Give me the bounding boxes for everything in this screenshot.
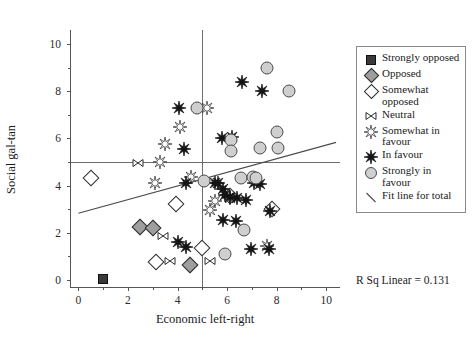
data-point <box>260 61 273 74</box>
y-tick <box>67 44 71 45</box>
y-tick <box>67 91 71 92</box>
data-point <box>176 204 188 216</box>
x-tick-minor <box>301 287 302 290</box>
x-tick-label: 8 <box>274 294 280 306</box>
x-tick-label: 0 <box>76 294 82 306</box>
data-point <box>179 176 193 190</box>
y-tick-minor <box>68 115 71 116</box>
x-tick-label: 6 <box>224 294 230 306</box>
data-point <box>163 254 177 268</box>
x-tick <box>78 287 79 291</box>
legend-item-open-diamond[interactable]: Somewhat opposed <box>362 84 461 108</box>
data-point <box>91 178 103 190</box>
y-tick-minor <box>68 256 71 257</box>
data-point <box>235 75 249 89</box>
y-tick <box>67 186 71 187</box>
data-point <box>203 254 217 268</box>
open-star-icon <box>362 125 380 140</box>
data-point <box>218 247 231 260</box>
y-tick-minor <box>68 209 71 210</box>
data-point <box>158 137 172 151</box>
data-point <box>239 193 253 207</box>
legend-item-label: Fit line for total <box>380 190 451 202</box>
data-point <box>270 126 283 139</box>
data-point <box>98 274 108 284</box>
y-axis-title: Social gal-tan <box>4 30 20 288</box>
data-point <box>224 145 237 158</box>
bowtie-icon <box>362 109 380 124</box>
data-point <box>191 101 204 114</box>
data-point <box>173 120 187 134</box>
data-point <box>203 203 217 217</box>
data-point <box>234 172 247 185</box>
filled-square-icon <box>362 52 380 67</box>
chart-root: Social gal-tan 02468100246810 Economic l… <box>0 0 473 339</box>
data-point <box>153 155 167 169</box>
data-point <box>190 265 202 277</box>
x-tick-minor <box>153 287 154 290</box>
data-point <box>131 156 145 170</box>
x-tick <box>227 287 228 291</box>
x-tick <box>178 287 179 291</box>
legend-item-filled-star[interactable]: In favour <box>362 149 461 164</box>
legend-item-label: In favour <box>380 149 423 161</box>
data-point <box>172 101 186 115</box>
data-point <box>156 229 170 243</box>
y-tick <box>67 233 71 234</box>
r-squared-annotation: R Sq Linear = 0.131 <box>356 274 450 286</box>
legend-item-filled-circle[interactable]: Strongly in favour <box>362 165 461 189</box>
open-diamond-icon <box>362 84 380 99</box>
x-tick-minor <box>202 287 203 290</box>
y-tick <box>67 138 71 139</box>
data-point <box>244 242 258 256</box>
legend-item-label: Strongly opposed <box>380 52 459 64</box>
legend: Strongly opposedOpposedSomewhat opposedN… <box>356 46 466 213</box>
legend-item-filled-diamond[interactable]: Opposed <box>362 68 461 83</box>
data-point <box>249 172 262 185</box>
x-tick <box>326 287 327 291</box>
data-point <box>177 142 191 156</box>
legend-item-label: Opposed <box>380 68 421 80</box>
filled-diamond-icon <box>362 68 380 83</box>
x-tick <box>128 287 129 291</box>
x-tick-label: 10 <box>320 294 332 306</box>
y-axis-title-label: Social gal-tan <box>5 124 20 193</box>
data-point <box>238 224 251 237</box>
filled-circle-icon <box>362 165 380 180</box>
x-tick <box>277 287 278 291</box>
data-point <box>179 240 193 254</box>
data-point <box>271 141 284 154</box>
line-segment-icon <box>362 190 380 205</box>
y-tick-label: 6 <box>55 132 61 144</box>
legend-item-bowtie[interactable]: Neutral <box>362 109 461 124</box>
x-axis-title: Economic left-right <box>70 312 340 327</box>
x-tick-label: 4 <box>175 294 181 306</box>
data-point <box>262 242 276 256</box>
y-tick-minor <box>68 68 71 69</box>
y-tick-minor <box>68 162 71 163</box>
plot-area: 02468100246810 <box>70 30 340 288</box>
data-point <box>197 174 210 187</box>
filled-star-icon <box>362 149 380 164</box>
data-point <box>148 176 162 190</box>
y-tick-label: 4 <box>55 180 61 192</box>
x-tick-minor <box>103 287 104 290</box>
x-tick-label: 2 <box>125 294 131 306</box>
legend-item-label: Strongly in favour <box>380 165 461 189</box>
legend-item-line-segment[interactable]: Fit line for total <box>362 190 461 205</box>
y-tick <box>67 280 71 281</box>
data-point <box>282 85 295 98</box>
y-tick-label: 0 <box>55 274 61 286</box>
y-tick-label: 10 <box>50 38 62 50</box>
legend-item-label: Somewhat in favour <box>380 125 461 149</box>
y-tick-label: 2 <box>55 227 61 239</box>
data-point <box>263 204 277 218</box>
legend-item-label: Somewhat opposed <box>380 84 461 108</box>
y-tick-label: 8 <box>55 85 61 97</box>
legend-item-label: Neutral <box>380 109 415 121</box>
data-point <box>254 141 267 154</box>
legend-item-filled-square[interactable]: Strongly opposed <box>362 52 461 67</box>
legend-item-open-star[interactable]: Somewhat in favour <box>362 125 461 149</box>
x-tick-minor <box>252 287 253 290</box>
data-point <box>255 84 269 98</box>
